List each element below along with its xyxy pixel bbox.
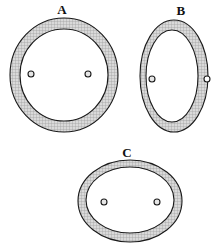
panel-c-shape — [0, 0, 224, 250]
panel-label-c: C — [112, 146, 142, 159]
figure-canvas — [0, 0, 224, 250]
figure-panel: A B C — [0, 0, 224, 250]
panel-label-b: B — [166, 4, 196, 17]
panel-c-marker-right — [154, 199, 160, 205]
panel-c-ring-hatch — [0, 0, 224, 250]
panel-c-marker-left — [101, 199, 107, 205]
panel-label-a: A — [47, 3, 77, 16]
